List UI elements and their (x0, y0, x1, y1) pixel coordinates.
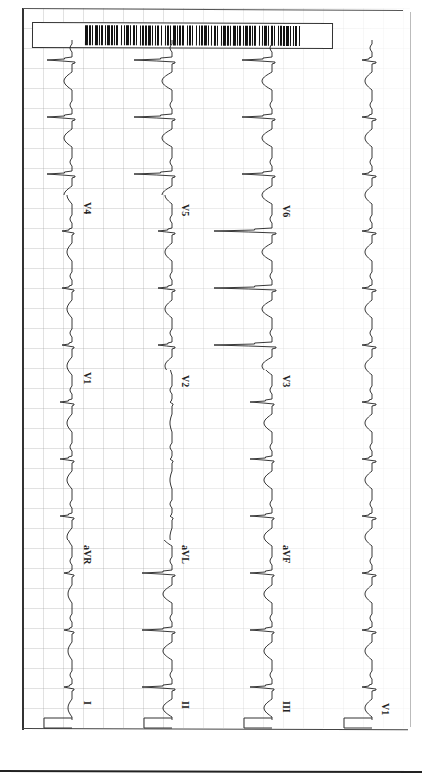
lead-label-I: I (82, 701, 93, 705)
calibration-pulse (44, 718, 72, 728)
lead-label-aVR: aVR (82, 545, 93, 564)
lead-label-V3: V3 (281, 375, 292, 387)
lead-label-V2: V2 (180, 375, 191, 387)
calibration-pulse (344, 718, 372, 728)
calibration-pulse (144, 718, 172, 728)
lead-label-aVL: aVL (180, 545, 191, 564)
lead-label-V6: V6 (281, 205, 292, 217)
lead-label-II: II (180, 701, 191, 709)
lead-label-III: III (281, 701, 292, 713)
ecg-trace (134, 40, 175, 720)
lead-label-V4: V4 (82, 202, 93, 214)
ecg-traces (0, 0, 430, 777)
calibration-pulse (244, 718, 272, 728)
ecg-trace (47, 40, 75, 720)
lead-label-V1-rhythm: V1 (380, 703, 391, 715)
lead-label-aVF: aVF (281, 545, 292, 563)
lead-label-V1: V1 (82, 372, 93, 384)
lead-label-V5: V5 (180, 204, 191, 216)
ecg-trace (214, 40, 276, 720)
ecg-page: I aVR V1 V4 II aVL V2 V5 III aVF V3 V6 V… (0, 0, 430, 777)
ecg-trace (362, 40, 376, 720)
